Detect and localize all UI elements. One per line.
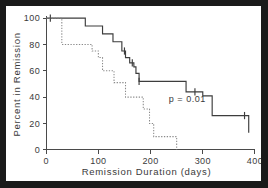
y-tick-label: 80 <box>29 40 40 50</box>
p-value-annotation: p = 0.01 <box>169 94 206 104</box>
x-axis-ticks: 0100200300400 <box>43 149 261 166</box>
y-tick-label: 0 <box>35 145 40 155</box>
figure-panel: 020406080100 0100200300400 p = 0.01 Perc… <box>6 6 261 181</box>
x-tick-label: 100 <box>90 156 106 166</box>
y-axis: 020406080100 <box>24 13 47 155</box>
y-tick-label: 20 <box>29 119 40 129</box>
y-axis-ticks: 020406080100 <box>24 13 47 155</box>
chart-annotations: p = 0.01 <box>169 94 206 104</box>
x-axis-title: Remission Duration (days) <box>82 166 212 177</box>
y-tick-label: 60 <box>29 66 40 76</box>
series-line-0 <box>46 18 249 133</box>
x-tick-label: 200 <box>142 156 158 166</box>
kaplan-meier-chart: 020406080100 0100200300400 p = 0.01 Perc… <box>6 6 261 181</box>
chart-series-group <box>46 14 249 149</box>
x-tick-label: 300 <box>195 156 211 166</box>
x-tick-label: 400 <box>247 156 261 166</box>
figure-frame: 020406080100 0100200300400 p = 0.01 Perc… <box>0 0 268 188</box>
series-line-1 <box>46 18 177 150</box>
y-tick-label: 100 <box>24 13 40 23</box>
y-axis-title: Percent in Remission <box>11 32 22 136</box>
x-tick-label: 0 <box>43 156 48 166</box>
y-tick-label: 40 <box>29 92 40 102</box>
x-axis: 0100200300400 <box>43 149 261 166</box>
